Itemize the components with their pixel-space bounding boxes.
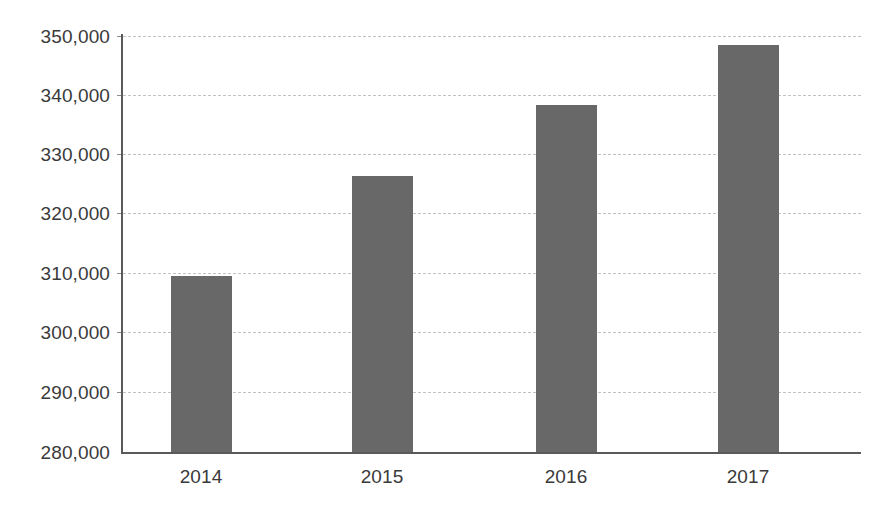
- y-axis-label-300000: 300,000: [0, 323, 110, 342]
- gridline-350000: [123, 36, 861, 37]
- x-axis-label-2016: 2016: [496, 466, 636, 488]
- x-axis-label-2017: 2017: [678, 466, 818, 488]
- y-axis-label-320000: 320,000: [0, 204, 110, 223]
- y-axis-label-280000: 280,000: [0, 443, 110, 462]
- bar-chart: 350,000 340,000 330,000 320,000 310,000 …: [0, 0, 882, 519]
- y-axis-label-350000: 350,000: [0, 27, 110, 46]
- bar-2014: [171, 276, 232, 452]
- x-axis-label-2014: 2014: [131, 466, 271, 488]
- bar-2016: [536, 105, 597, 452]
- x-axis-line: [121, 452, 861, 454]
- y-axis-line: [121, 34, 123, 454]
- bar-2017: [718, 45, 779, 452]
- y-axis-label-310000: 310,000: [0, 264, 110, 283]
- y-axis-label-340000: 340,000: [0, 86, 110, 105]
- bar-2015: [352, 176, 413, 452]
- x-axis-label-2015: 2015: [312, 466, 452, 488]
- y-axis-label-330000: 330,000: [0, 145, 110, 164]
- y-axis-label-290000: 290,000: [0, 383, 110, 402]
